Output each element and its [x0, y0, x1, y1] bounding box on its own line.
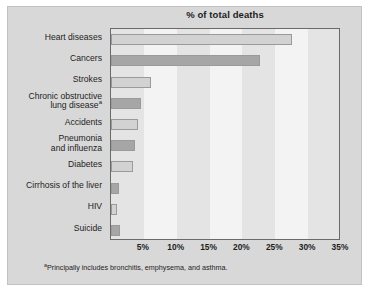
category-label: Diabetes — [0, 160, 102, 170]
category-axis-labels: Heart diseasesCancersStrokesChronic obst… — [0, 28, 106, 240]
category-label: Pneumoniaand influenza — [0, 134, 102, 153]
x-axis-tick-labels: 5%10%15%20%25%30%35% — [110, 242, 340, 256]
bar-series — [111, 29, 339, 239]
x-tick-label: 35% — [332, 242, 349, 252]
category-label: Cancers — [0, 54, 102, 64]
category-label: Chronic obstructivelung diseasea — [0, 92, 102, 111]
category-label: Suicide — [0, 224, 102, 234]
footnote-text: Principally includes bronchitis, emphyse… — [47, 263, 228, 272]
chart-figure: % of total deaths Heart diseasesCancersS… — [0, 0, 369, 292]
x-tick-label: 5% — [137, 242, 149, 252]
category-label: Accidents — [0, 118, 102, 128]
x-tick-label: 25% — [266, 242, 283, 252]
bar — [111, 77, 151, 88]
category-label: Cirrhosis of the liver — [0, 181, 102, 191]
x-tick-label: 20% — [233, 242, 250, 252]
bar — [111, 55, 260, 66]
bar — [111, 140, 135, 151]
category-label: Heart diseases — [0, 33, 102, 43]
x-tick-label: 30% — [299, 242, 316, 252]
bar — [111, 119, 138, 130]
plot-area — [110, 28, 340, 240]
bar — [111, 204, 117, 215]
bar — [111, 98, 141, 109]
x-tick-label: 15% — [200, 242, 217, 252]
chart-footnote: aPrincipally includes bronchitis, emphys… — [44, 263, 228, 272]
chart-title: % of total deaths — [110, 9, 340, 20]
bar — [111, 34, 292, 45]
category-label: Strokes — [0, 75, 102, 85]
bar — [111, 161, 133, 172]
category-label: HIV — [0, 202, 102, 212]
bar — [111, 225, 120, 236]
x-tick-label: 10% — [167, 242, 184, 252]
bar — [111, 183, 119, 194]
